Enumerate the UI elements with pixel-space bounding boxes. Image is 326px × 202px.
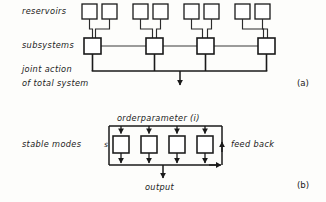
figure-container: reservoirs subsystems joint action of to…: [0, 0, 326, 202]
panel-b-graphics: [109, 126, 222, 178]
label-feed-back: feed back: [231, 140, 274, 149]
reservoir-box: [235, 4, 250, 19]
stable-mode-boxes-group: [113, 136, 213, 153]
label-subsystems: subsystems: [22, 41, 74, 50]
stable-mode-box: [113, 136, 129, 153]
reservoir-connectors-group-3: [192, 19, 212, 38]
reservoir-boxes-group: [82, 4, 270, 19]
label-orderparameter: orderparameter (i): [117, 114, 200, 123]
panel-a-graphics: [82, 4, 275, 85]
reservoir-box: [204, 4, 219, 19]
reservoir-box: [102, 4, 117, 19]
reservoir-box: [184, 4, 199, 19]
panel-b-tag: (b): [297, 180, 309, 190]
stable-mode-box: [141, 136, 157, 153]
reservoir-connectors-group-4: [243, 19, 268, 38]
schematic-diagram: [0, 0, 326, 202]
subsystem-box: [84, 38, 101, 54]
label-s: s: [104, 141, 108, 149]
stable-mode-box: [169, 136, 185, 153]
reservoir-connectors-group-2: [141, 19, 161, 38]
label-joint-action-line2: of total system: [22, 79, 89, 88]
panel-a-tag: (a): [297, 78, 309, 88]
mode-output-arrows: [121, 153, 205, 163]
reservoir-box: [82, 4, 97, 19]
subsystem-box: [146, 38, 163, 54]
label-joint-action-line1: joint action: [22, 65, 72, 74]
orderparameter-input-arrows: [121, 126, 205, 134]
reservoir-box: [255, 4, 270, 19]
subsystem-to-bus-legs: [93, 54, 267, 71]
reservoir-box: [153, 4, 168, 19]
reservoir-box: [133, 4, 148, 19]
reservoir-connectors-group-1: [90, 19, 110, 38]
label-output: output: [145, 183, 174, 192]
label-reservoirs: reservoirs: [22, 7, 66, 16]
subsystem-box: [258, 38, 275, 54]
label-stable-modes: stable modes: [22, 140, 81, 149]
stable-mode-box: [197, 136, 213, 153]
subsystem-box: [197, 38, 214, 54]
